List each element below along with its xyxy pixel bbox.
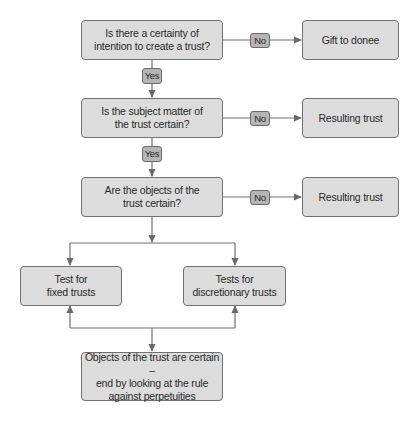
node-resulting-trust: Resulting trust — [302, 177, 399, 217]
node-label: Is there a certainty of intention to cre… — [94, 27, 210, 53]
node-fixed-trusts-test: Test for fixed trusts — [20, 266, 122, 306]
node-label: Gift to donee — [322, 34, 380, 47]
node-objects-certain-perpetuities: Objects of the trust are certain – end b… — [81, 352, 223, 401]
edge-label-yes: Yes — [142, 146, 162, 162]
node-label: Tests for discretionary trusts — [192, 273, 276, 299]
node-label: Test for fixed trusts — [47, 273, 95, 299]
flowchart: Is there a certainty of intention to cre… — [0, 0, 414, 424]
node-discretionary-trusts-test: Tests for discretionary trusts — [183, 266, 286, 306]
node-label: Objects of the trust are certain – end b… — [82, 351, 222, 403]
node-certainty-of-intention: Is there a certainty of intention to cre… — [81, 20, 223, 60]
node-label: Are the objects of the trust certain? — [105, 184, 200, 210]
node-resulting-trust: Resulting trust — [302, 98, 399, 138]
edge-label-no: No — [250, 33, 270, 48]
node-certainty-of-subject-matter: Is the subject matter of the trust certa… — [81, 98, 223, 138]
node-label: Resulting trust — [318, 191, 382, 204]
edge-label-yes: Yes — [142, 68, 162, 84]
node-gift-to-donee: Gift to donee — [302, 20, 399, 60]
edge-label-no: No — [250, 190, 270, 205]
node-label: Resulting trust — [318, 112, 382, 125]
node-label: Is the subject matter of the trust certa… — [101, 105, 202, 131]
node-certainty-of-objects: Are the objects of the trust certain? — [81, 177, 223, 217]
edge-label-no: No — [250, 111, 270, 126]
